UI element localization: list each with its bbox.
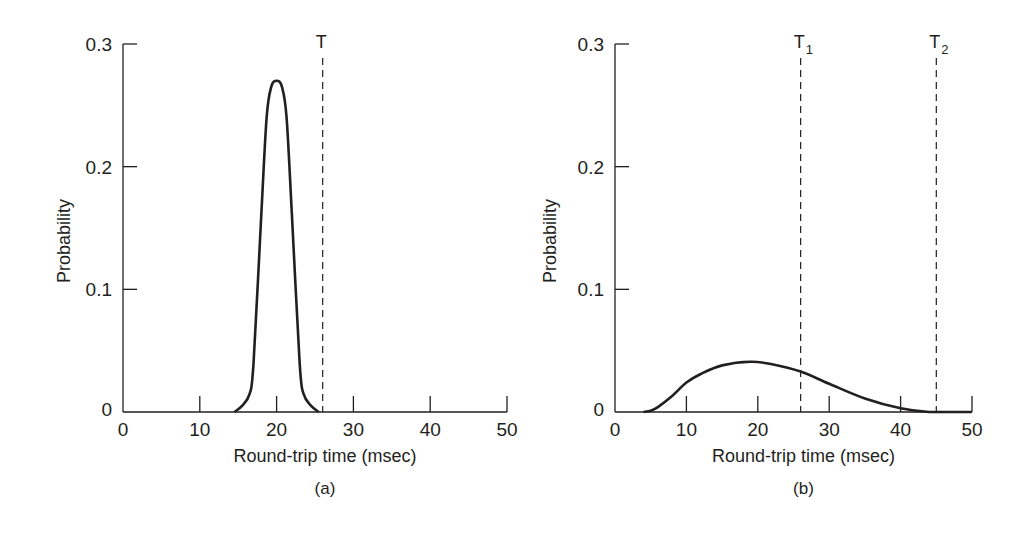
x-tick-label: 40 [890,419,911,440]
x-axis-label: Round-trip time (msec) [712,446,895,466]
x-tick-label: 20 [266,419,287,440]
y-tick-label: 0.3 [86,34,112,55]
x-tick-label: 40 [420,419,441,440]
threshold-label: T2 [929,32,948,57]
y-tick-label: 0 [101,399,112,420]
y-tick-label: 0.1 [86,279,112,300]
chart-panel-a: 00.10.20.301020304050Round-trip time (ms… [54,32,518,498]
panel-caption: (a) [315,479,336,498]
x-tick-label: 20 [747,419,768,440]
y-tick-label: 0 [593,399,604,420]
x-axis-label: Round-trip time (msec) [233,446,416,466]
x-tick-label: 30 [343,419,364,440]
figure: 00.10.20.301020304050Round-trip time (ms… [0,0,1035,544]
chart-panel-b: 00.10.20.301020304050Round-trip time (ms… [540,32,983,498]
x-tick-label: 0 [118,419,129,440]
y-axis-label: Probability [54,199,74,283]
threshold-label: T1 [794,32,813,57]
y-tick-label: 0.2 [86,157,112,178]
x-tick-label: 10 [676,419,697,440]
x-tick-label: 0 [610,419,621,440]
x-tick-label: 50 [961,419,982,440]
x-tick-label: 10 [189,419,210,440]
distribution-curve [234,81,318,412]
y-axis-label: Probability [540,199,560,283]
y-tick-label: 0.1 [578,279,604,300]
x-tick-label: 30 [819,419,840,440]
y-tick-label: 0.2 [578,157,604,178]
x-tick-label: 50 [496,419,517,440]
y-tick-label: 0.3 [578,34,604,55]
panel-caption: (b) [793,479,814,498]
distribution-curve [644,362,972,412]
threshold-label: T [316,32,327,52]
